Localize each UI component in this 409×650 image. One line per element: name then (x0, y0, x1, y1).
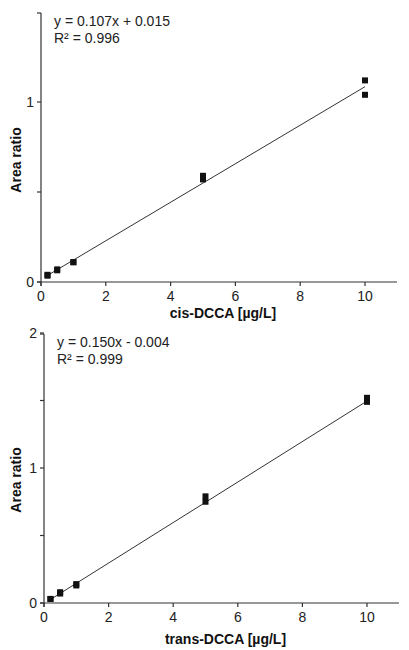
r-squared-label: R² = 0.999 (57, 351, 123, 367)
data-point (47, 596, 53, 602)
regression-line (47, 87, 365, 276)
x-tick-label: 10 (359, 609, 375, 625)
x-tick-label: 10 (357, 288, 373, 304)
y-tick-label: 1 (26, 94, 34, 110)
data-point (362, 92, 368, 98)
x-tick-label: 2 (105, 609, 113, 625)
x-tick-label: 8 (296, 288, 304, 304)
x-tick-label: 6 (234, 609, 242, 625)
x-tick-label: 6 (232, 288, 240, 304)
chart-canvas: 0120246810trans-DCCA [µg/L]Area ratioy =… (0, 322, 409, 650)
data-point (362, 77, 368, 83)
data-point (203, 499, 209, 505)
chart-trans-dcca: 0120246810trans-DCCA [µg/L]Area ratioy =… (0, 322, 409, 650)
x-tick-label: 0 (37, 288, 45, 304)
data-point (203, 493, 209, 499)
y-tick-label: 0 (26, 274, 34, 290)
y-tick-label: 2 (29, 325, 37, 341)
r-squared-label: R² = 0.996 (54, 30, 120, 46)
regression-equation: y = 0.107x + 0.015 (54, 13, 170, 29)
data-point (200, 173, 206, 179)
x-tick-label: 8 (299, 609, 307, 625)
y-axis-title: Area ratio (8, 447, 24, 512)
chart-canvas: 010246810cis-DCCA [µg/L]Area ratioy = 0.… (0, 0, 409, 322)
regression-line (50, 401, 367, 599)
x-tick-label: 4 (169, 609, 177, 625)
x-tick-label: 2 (102, 288, 110, 304)
data-point (364, 395, 370, 401)
x-tick-label: 4 (167, 288, 175, 304)
data-point (73, 581, 79, 587)
x-tick-label: 0 (40, 609, 48, 625)
data-point (44, 272, 50, 278)
y-axis-title: Area ratio (8, 127, 24, 192)
chart-cis-dcca: 010246810cis-DCCA [µg/L]Area ratioy = 0.… (0, 0, 409, 322)
y-tick-label: 1 (29, 460, 37, 476)
data-point (57, 589, 63, 595)
data-point (70, 259, 76, 265)
x-axis-title: cis-DCCA [µg/L] (170, 305, 276, 321)
x-axis-title: trans-DCCA [µg/L] (165, 631, 286, 647)
y-tick-label: 0 (29, 595, 37, 611)
data-point (54, 266, 60, 272)
regression-equation: y = 0.150x - 0.004 (57, 334, 170, 350)
